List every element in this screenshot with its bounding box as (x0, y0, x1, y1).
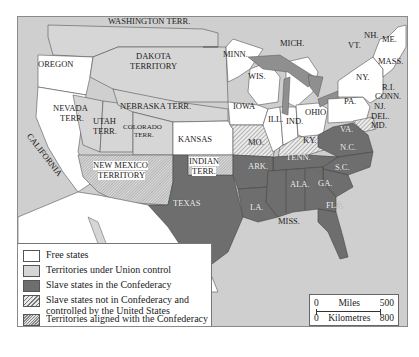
label-dakota: DAKOTA (136, 52, 171, 61)
label-colorado2: TERR. (134, 131, 154, 140)
label-kansas: KANSAS (178, 135, 212, 144)
label-oregon: OREGON (38, 60, 73, 69)
label-texas: TEXAS (173, 199, 200, 208)
label-new-mexico: NEW MEXICO (93, 161, 148, 170)
label-utah: UTAH (93, 117, 116, 126)
label-new-mexico2: TERRITORY (98, 171, 145, 180)
confederacy-swatch (23, 280, 40, 292)
label-dakota2: TERRITORY (130, 62, 177, 71)
label-iowa: IOWA (233, 102, 255, 111)
scale-bar: 0 Miles 500 0 Kilometres 800 (309, 294, 399, 326)
label-indian2: TERR. (192, 167, 216, 176)
label-ind: IND. (286, 117, 303, 126)
label-indian: INDIAN (189, 157, 219, 166)
label-pa: PA. (344, 97, 356, 106)
label-ky: KY. (303, 136, 316, 145)
label-la: LA. (250, 203, 263, 212)
label-nj: NJ. (374, 102, 386, 111)
scale-line (316, 311, 381, 312)
label-conn: CONN. (375, 92, 401, 101)
label-nc: N.C. (340, 143, 356, 152)
label-md: MD. (371, 121, 387, 130)
label-washington: WASHINGTON TERR. (108, 17, 190, 26)
legend-item-confederacy: Slave states in the Confederacy (23, 279, 172, 292)
legend-item-union-territories: Territories under Union control (23, 264, 171, 277)
label-me: ME. (382, 35, 397, 44)
union-territories-swatch (23, 265, 40, 277)
label-ala: ALA. (290, 180, 310, 189)
legend-item-confederate-territories: Territories aligned with the Confederacy (23, 313, 223, 326)
label-minn: MINN. (223, 50, 248, 59)
label-mich: MICH. (280, 39, 304, 48)
label-nh: NH. (364, 31, 378, 40)
scale-miles-end: 500 (380, 298, 394, 308)
label-ga: GA. (318, 179, 332, 188)
label-nevada2: TERR. (60, 114, 84, 123)
map-frame: WASHINGTON TERR. OREGON DAKOTA TERRITORY… (17, 16, 408, 327)
label-sc: S.C. (335, 163, 350, 172)
label-mass: MASS. (378, 57, 403, 66)
label-utah2: TERR. (93, 127, 117, 136)
label-ark: ARK. (248, 162, 268, 171)
scale-miles-start: 0 (314, 298, 319, 308)
label-ny: NY. (356, 73, 369, 82)
label-nevada: NEVADA (53, 104, 88, 113)
legend-item-free-states: Free states (23, 249, 89, 262)
label-mo: MO. (248, 138, 264, 147)
border-states-swatch (23, 295, 40, 307)
scale-miles-label: Miles (338, 298, 360, 308)
label-vt: VT. (348, 41, 361, 50)
label-fla: FLA. (326, 201, 344, 210)
label-wis: WIS. (248, 72, 266, 81)
label-miss: MISS. (278, 217, 300, 226)
free-states-swatch (23, 250, 40, 262)
label-tenn: TENN. (286, 153, 311, 162)
scale-km-end: 800 (380, 313, 394, 323)
label-nebraska: NEBRASKA TERR. (120, 102, 191, 111)
florida (318, 209, 348, 259)
confederate-territories-swatch (23, 314, 40, 326)
scale-km-start: 0 (314, 313, 319, 323)
label-va: VA. (340, 125, 353, 134)
label-ill: ILL. (268, 115, 283, 124)
legend: Free states Territories under Union cont… (18, 243, 212, 326)
label-ohio: OHIO (305, 108, 326, 117)
scale-km-label: Kilometres (328, 313, 370, 323)
